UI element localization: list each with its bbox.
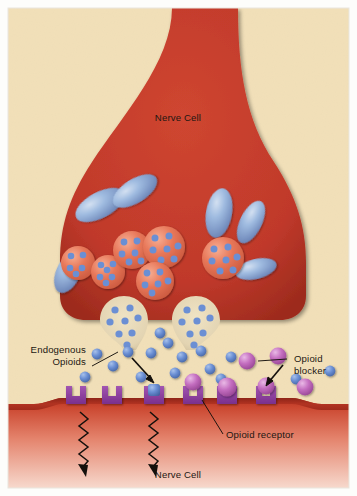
synaptic-vesicle — [61, 246, 95, 280]
opioid-molecule — [205, 364, 216, 375]
opioid-blocker-molecule — [185, 374, 202, 391]
synaptic-vesicle — [136, 262, 174, 300]
opioid-molecule — [226, 352, 237, 363]
postsynaptic-cell-label: Nerve Cell — [155, 469, 201, 480]
presynaptic-cell-label: Nerve Cell — [155, 112, 201, 123]
opioid-molecule — [170, 368, 181, 379]
opioid-blocker-molecule — [270, 348, 287, 365]
synaptic-vesicle — [143, 226, 185, 268]
opioid-blocker-label-line1: Opioid — [294, 353, 323, 364]
opioid-molecule — [155, 328, 166, 339]
bound-opioid-molecule — [148, 384, 160, 396]
opioid-molecule — [123, 347, 134, 358]
opioid-blocker-molecule-bound — [218, 378, 237, 397]
opioid-molecule — [108, 361, 119, 372]
opioid-molecule — [146, 348, 157, 359]
endogenous-opioids-label-line1: Endogenous — [31, 344, 86, 355]
opioid-blocker-label-line2: blocker — [294, 365, 327, 376]
opioid-blocker-molecule — [239, 353, 256, 370]
opioid-molecule — [80, 372, 91, 383]
opioid-blocker-molecule — [297, 379, 314, 396]
synaptic-vesicle — [202, 237, 244, 279]
opioid-synapse-figure: Nerve Cell — [0, 0, 357, 496]
endogenous-opioids-label-line2: Opioids — [52, 356, 86, 367]
opioid-molecule — [325, 366, 336, 377]
opioid-molecule — [92, 349, 103, 360]
opioid-receptor-bound-opioid[interactable] — [144, 384, 164, 404]
synapse-diagram-canvas: Nerve Cell — [0, 0, 357, 496]
opioid-receptor-label: Opioid receptor — [226, 429, 294, 440]
opioid-molecule — [163, 338, 174, 349]
opioid-molecule — [177, 352, 188, 363]
opioid-molecule — [196, 346, 207, 357]
